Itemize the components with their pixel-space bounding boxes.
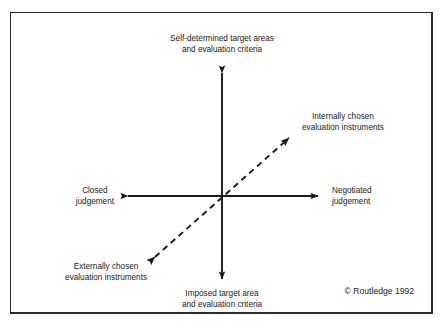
axis-label-negotiated-judgement: Negotiated judgement bbox=[332, 186, 372, 207]
axis-label-externally-chosen: Externally chosen evaluation instruments bbox=[65, 262, 147, 283]
axis-label-closed-judgement-line2: judgement bbox=[76, 197, 114, 208]
figure-container: Self-determined target areas and evaluat… bbox=[0, 0, 443, 325]
axis-label-self-determined: Self-determined target areas and evaluat… bbox=[170, 34, 274, 55]
copyright-notice: © Routledge 1992 bbox=[345, 286, 414, 297]
axis-label-internally-chosen-line1: Internally chosen bbox=[302, 112, 384, 123]
axis-label-imposed-target: Imposed target area and evaluation crite… bbox=[182, 289, 262, 310]
axis-label-self-determined-line1: Self-determined target areas bbox=[170, 34, 274, 45]
axis-label-externally-chosen-line2: evaluation instruments bbox=[65, 273, 147, 284]
axis-label-closed-judgement-line1: Closed bbox=[76, 186, 114, 197]
axis-label-internally-chosen-line2: evaluation instruments bbox=[302, 123, 384, 134]
axis-label-imposed-target-line1: Imposed target area bbox=[182, 289, 262, 300]
axis-label-self-determined-line2: and evaluation criteria bbox=[170, 45, 274, 56]
axis-label-negotiated-judgement-line1: Negotiated bbox=[332, 186, 372, 197]
axis-label-closed-judgement: Closed judgement bbox=[76, 186, 114, 207]
axis-label-negotiated-judgement-line2: judgement bbox=[332, 197, 372, 208]
axis-label-internally-chosen: Internally chosen evaluation instruments bbox=[302, 112, 384, 133]
axis-label-imposed-target-line2: and evaluation criteria bbox=[182, 300, 262, 311]
axis-label-externally-chosen-line1: Externally chosen bbox=[65, 262, 147, 273]
